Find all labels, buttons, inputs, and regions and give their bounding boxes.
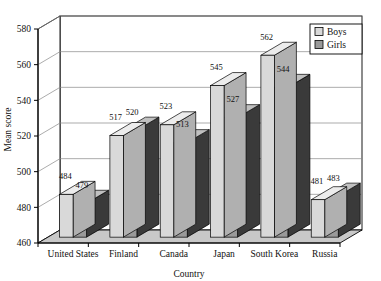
bar-chart: 460480500520540560580 484479517520523513… xyxy=(0,0,381,281)
value-label-girls-5: 483 xyxy=(327,173,340,183)
value-label-boys-0: 484 xyxy=(59,171,73,181)
value-label-boys-2: 523 xyxy=(160,101,173,111)
y-tick-label-520: 520 xyxy=(17,131,32,141)
value-label-boys-4: 562 xyxy=(260,32,273,42)
legend-swatch-boys xyxy=(315,28,323,36)
legend-swatch-girls xyxy=(315,41,323,49)
chart-legend: BoysGirls xyxy=(310,24,362,54)
y-tick-label-460: 460 xyxy=(17,238,32,248)
y-axis-title: Mean score xyxy=(3,107,13,151)
x-label-finland: Finland xyxy=(109,249,138,259)
legend-label-girls: Girls xyxy=(327,40,346,50)
x-axis-categories: United StatesFinlandCanadaJapanSouth Kor… xyxy=(38,243,340,259)
legend-label-boys: Boys xyxy=(327,27,347,37)
column-side-face xyxy=(123,123,145,238)
value-label-boys-3: 545 xyxy=(210,62,223,72)
legend-entry-boys[interactable]: Boys xyxy=(315,27,347,37)
value-label-girls-0: 479 xyxy=(75,180,88,190)
legend-entry-girls[interactable]: Girls xyxy=(315,40,346,50)
x-axis-title: Country xyxy=(173,269,204,279)
y-tick-label-540: 540 xyxy=(17,96,32,106)
bar-boys-canada xyxy=(160,112,196,237)
y-tick-label-480: 480 xyxy=(17,203,32,213)
y-tick-label-560: 560 xyxy=(17,60,32,70)
column-front-face xyxy=(311,200,325,237)
x-label-russia: Russia xyxy=(312,249,338,259)
value-label-girls-4: 544 xyxy=(277,64,291,74)
value-label-girls-1: 520 xyxy=(126,107,139,117)
column-side-face xyxy=(174,112,196,237)
column-front-face xyxy=(110,136,124,238)
x-label-canada: Canada xyxy=(159,249,188,259)
column-front-face xyxy=(60,194,74,237)
column-front-face xyxy=(261,55,275,237)
value-label-girls-2: 513 xyxy=(176,119,189,129)
y-tick-label-580: 580 xyxy=(17,24,32,34)
y-axis-ticks: 460480500520540560580 xyxy=(17,24,38,248)
column-front-face xyxy=(211,86,225,238)
value-label-boys-1: 517 xyxy=(109,112,122,122)
value-label-girls-3: 527 xyxy=(226,94,239,104)
value-label-boys-5: 481 xyxy=(311,176,324,186)
bar-boys-finland xyxy=(110,123,145,238)
column-front-face xyxy=(160,125,174,237)
chart-canvas: 460480500520540560580 484479517520523513… xyxy=(0,0,381,281)
x-label-united-states: United States xyxy=(48,249,99,259)
x-label-south-korea: South Korea xyxy=(251,249,300,259)
x-label-japan: Japan xyxy=(213,249,235,259)
y-tick-label-500: 500 xyxy=(17,167,32,177)
